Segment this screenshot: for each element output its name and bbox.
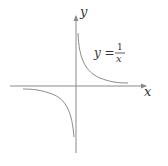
- x-axis-label: x: [144, 84, 152, 99]
- equation-denominator: x: [116, 53, 122, 64]
- hyperbola-graph: y x y = 1 x: [0, 0, 168, 166]
- y-axis-label: y: [79, 4, 88, 19]
- curve-negative-branch: [23, 89, 74, 137]
- equation-numerator: 1: [117, 42, 123, 52]
- equation-lhs: y =: [93, 46, 115, 60]
